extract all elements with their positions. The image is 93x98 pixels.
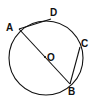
chord-bc bbox=[70, 47, 80, 84]
label-c: C bbox=[81, 38, 88, 49]
label-d: D bbox=[50, 7, 57, 18]
label-o: O bbox=[47, 52, 55, 63]
label-a: A bbox=[6, 22, 13, 33]
label-b: B bbox=[68, 86, 75, 97]
center-point-o bbox=[44, 56, 46, 58]
chord-ad bbox=[19, 19, 51, 29]
circle-diagram: A D C B O bbox=[0, 0, 93, 98]
